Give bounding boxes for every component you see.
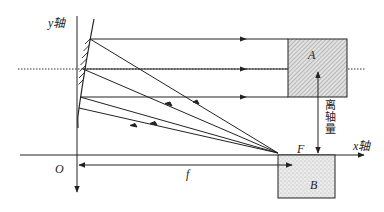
parabolic-mirror	[78, 19, 94, 128]
parallel-rays	[80, 37, 288, 100]
region-a-label: A	[308, 49, 315, 61]
region-b-box	[278, 155, 335, 198]
off-axis-label: 离轴量	[324, 99, 335, 135]
optics-diagram: y轴 x轴 O F f A B 离轴量	[0, 0, 384, 212]
origin-label: O	[55, 163, 64, 175]
region-b-label: B	[310, 179, 317, 191]
converging-rays	[79, 39, 278, 153]
x-axis-label: x轴	[353, 140, 370, 152]
focal-length-label: f	[186, 168, 189, 180]
focus-label: F	[297, 143, 304, 155]
y-axis-label: y轴	[48, 17, 65, 29]
